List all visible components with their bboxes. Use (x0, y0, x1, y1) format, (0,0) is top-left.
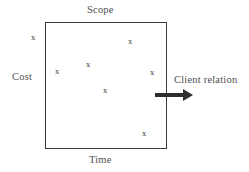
arrow-shaft (155, 93, 185, 97)
label-time: Time (89, 155, 112, 166)
client-relation-arrow (155, 89, 196, 101)
label-scope: Scope (87, 5, 114, 16)
label-cost: Cost (12, 72, 32, 83)
x-mark: x (150, 68, 154, 77)
x-mark: x (55, 67, 59, 76)
x-mark: x (86, 60, 90, 69)
x-mark: x (142, 129, 146, 138)
x-mark: x (103, 86, 107, 95)
diagram-canvas: Scope Cost Time Client relation xxxxxxx (0, 0, 249, 172)
x-mark: x (31, 33, 35, 42)
label-client-relation: Client relation (174, 75, 237, 86)
x-mark: x (128, 37, 132, 46)
arrow-head-icon (183, 89, 193, 101)
